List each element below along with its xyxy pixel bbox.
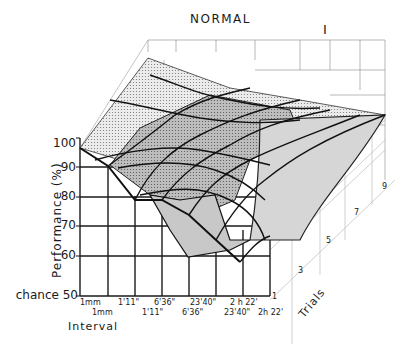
z-tick-1: 1 (272, 292, 277, 301)
x-axis-label: Interval (68, 320, 118, 333)
z-tick-5: 5 (326, 236, 331, 245)
y-tick-70: 70 (16, 218, 76, 232)
y-tick-chance-50: chance 50 (0, 288, 78, 302)
y-tick-60: 60 (16, 248, 76, 262)
x-tick-row2-0: 1mm (92, 308, 113, 317)
chart-title: NORMAL (190, 12, 251, 26)
x-tick-row1-3: 23'40" (190, 298, 216, 307)
x-tick-row2-2: 6'36" (182, 308, 203, 317)
y-tick-100: 100 (16, 136, 76, 150)
y-axis-label: Performance (%) (50, 162, 64, 278)
z-tick-9: 9 (382, 182, 387, 191)
x-tick-row1-1: 1'11" (118, 298, 139, 307)
surface-right (250, 115, 385, 240)
x-tick-row1-0: 1mm (80, 298, 101, 307)
x-tick-row1-4: 2 h 22' (230, 298, 258, 307)
z-tick-3: 3 (298, 266, 303, 275)
x-tick-row2-1: 1'11" (142, 308, 163, 317)
y-tick-90: 90 (16, 160, 76, 174)
x-tick-row2-4: 2h 22' (258, 308, 283, 317)
z-tick-7: 7 (354, 208, 359, 217)
panel-marker: I (323, 22, 327, 37)
x-tick-row2-3: 23'40" (224, 308, 250, 317)
x-tick-row1-2: 6'36" (154, 298, 175, 307)
y-tick-80: 80 (16, 189, 76, 203)
